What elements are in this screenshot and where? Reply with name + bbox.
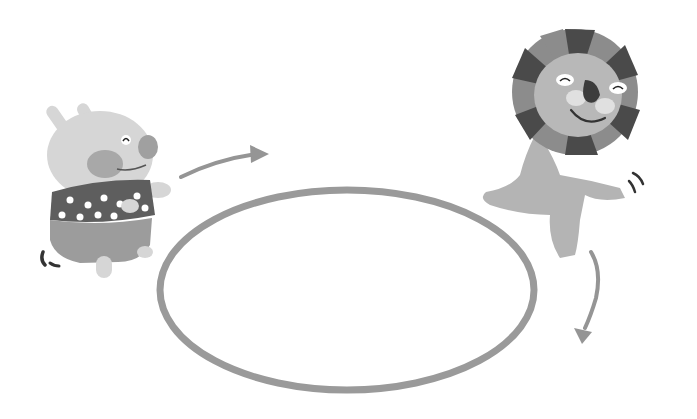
motion-arrow-down <box>574 252 598 344</box>
scene-canvas <box>0 0 697 419</box>
hoop <box>160 190 534 390</box>
pig-character <box>42 101 171 278</box>
illustration-scene <box>0 0 697 419</box>
lion-character <box>483 29 643 258</box>
motion-arrow-right <box>181 145 269 177</box>
